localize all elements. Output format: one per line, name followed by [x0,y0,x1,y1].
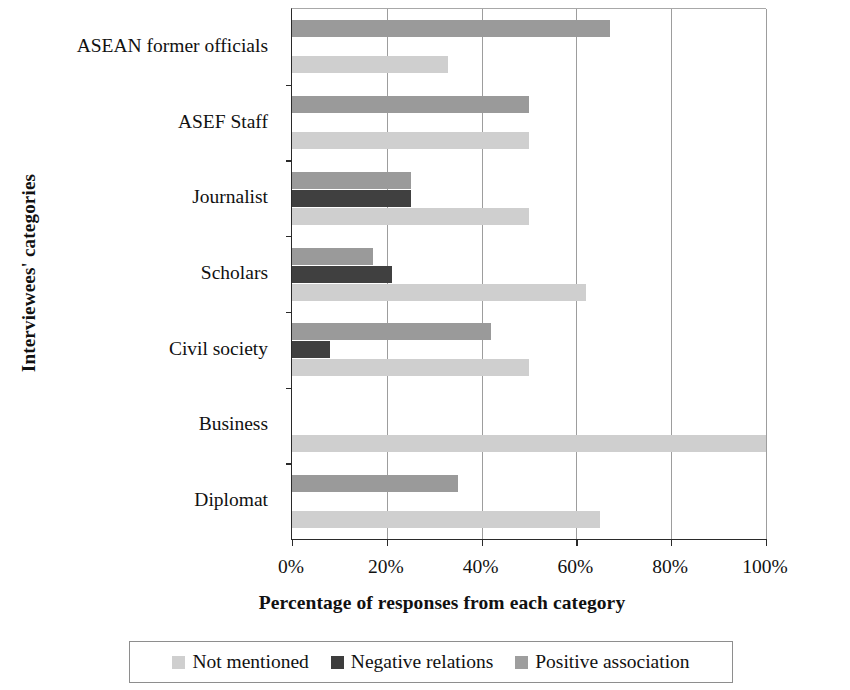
legend-swatch-icon [172,656,185,669]
bar-row [292,398,766,416]
bar-group [292,236,766,312]
value-axis-labels: 0%20%40%60%80%100% [291,556,765,582]
value-axis-tick-label: 40% [463,556,499,578]
category-label: Scholars [30,235,278,311]
bar [292,511,600,528]
bar-row [292,189,766,207]
category-axis-tick [286,236,292,237]
bar [292,172,411,189]
bar [292,475,458,492]
bar-row [292,20,766,38]
bar-row [292,114,766,132]
value-axis-tick [671,539,672,546]
category-label: Civil society [30,311,278,387]
legend-label: Positive association [535,651,689,673]
value-axis-tick [387,539,388,546]
category-axis-labels: ASEAN former officials ASEF Staff Journa… [30,8,278,538]
bar-group [292,9,766,85]
legend-item: Negative relations [331,651,493,673]
value-axis-tick-label: 20% [368,556,404,578]
value-axis-tick-label: 80% [652,556,688,578]
category-label: Business [30,387,278,463]
category-axis-tick [286,312,292,313]
category-axis-tick [286,85,292,86]
value-axis-tick-label: 60% [558,556,594,578]
legend-item: Not mentioned [172,651,308,673]
bar [292,208,529,225]
bar-row [292,132,766,150]
bar [292,190,411,207]
bar [292,96,529,113]
chart-legend: Not mentionedNegative relationsPositive … [129,641,733,683]
bar-row [292,416,766,434]
bar-row [292,247,766,265]
bar-row [292,171,766,189]
value-axis-tick [766,539,767,546]
gridline [766,9,767,539]
bar [292,248,373,265]
legend-swatch-icon [331,656,344,669]
bar [292,323,491,340]
bar-row [292,341,766,359]
legend-label: Negative relations [351,651,493,673]
plot-area [291,8,766,540]
bar-group [292,463,766,539]
category-axis-tick [286,463,292,464]
bar-chart: Interviewees' categories ASEAN former of… [0,0,850,690]
value-axis-tick [576,539,577,546]
legend-label: Not mentioned [192,651,308,673]
bar [292,435,766,452]
bar-row [292,207,766,225]
value-axis-tick [482,539,483,546]
bar [292,132,529,149]
category-label: Diplomat [30,462,278,538]
bar-row [292,510,766,528]
bar-row [292,359,766,377]
bar-group [292,160,766,236]
bar-row [292,56,766,74]
bar [292,266,392,283]
legend-item: Positive association [515,651,689,673]
legend-swatch-icon [515,656,528,669]
bar-row [292,492,766,510]
bar [292,20,610,37]
value-axis-tick-label: 0% [278,556,304,578]
category-axis-tick [286,388,292,389]
bar [292,284,586,301]
bar [292,56,448,73]
bar-group [292,388,766,464]
bar [292,359,529,376]
bar-row [292,96,766,114]
x-axis-title: Percentage of responses from each catego… [0,592,850,614]
bar-groups [292,9,766,539]
bar-row [292,38,766,56]
category-label: Journalist [30,159,278,235]
category-label: ASEAN former officials [30,8,278,84]
bar-group [292,312,766,388]
category-label: ASEF Staff [30,84,278,160]
value-axis-tick-label: 100% [742,556,788,578]
bar-row [292,323,766,341]
bar-row [292,265,766,283]
bar [292,341,330,358]
bar-row [292,283,766,301]
value-axis-tick [292,539,293,546]
bar-row [292,434,766,452]
category-axis-tick [286,160,292,161]
bar-group [292,85,766,161]
bar-row [292,474,766,492]
